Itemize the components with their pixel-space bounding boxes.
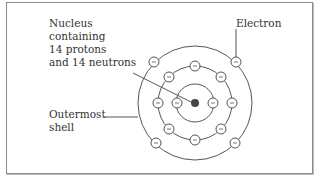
atom-diagram	[0, 0, 319, 180]
nucleus	[191, 99, 199, 107]
